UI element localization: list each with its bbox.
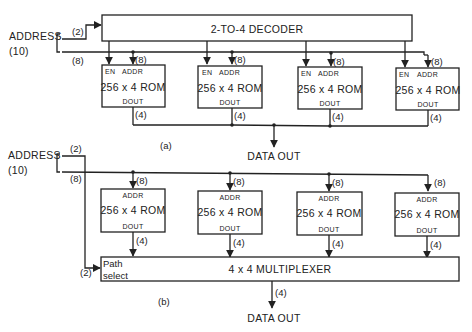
select-width-a: (2) [72,26,84,37]
rom-label: 256 x 4 ROM [197,206,262,218]
rom-label: 256 x 4 ROM [100,81,165,93]
rom-a-3: (8) EN ADDR 256 x 4 ROM DOUT (4) [297,41,362,126]
dout-label: DOUT [122,98,143,105]
rom-b-1: (8) ADDR 256 x 4 ROM DOUT (4) [100,170,165,256]
junction-dot [230,123,234,127]
address-width-a: (10) [9,45,29,57]
addr-label: ADDR [416,196,437,203]
en-label: EN [202,69,212,76]
rom-label: 256 x 4 ROM [197,82,262,94]
dout-label: DOUT [318,226,339,233]
out-width: (4) [136,235,148,246]
addr-label: ADDR [219,194,240,201]
memory-expansion-diagram: ADDRESS (10) (2) (8) 2-TO-4 DECODER (8) … [0,0,472,332]
data-out-label-a: DATA OUT [247,150,301,162]
addr-width: (8) [135,54,147,65]
addr-width: (8) [234,54,246,65]
addr-width: (8) [233,176,245,187]
addr-bus-b [62,172,428,175]
part-a: ADDRESS (10) (2) (8) 2-TO-4 DECODER (8) … [9,15,461,162]
dout-label: DOUT [417,101,438,108]
addr-label: ADDR [417,71,438,78]
addr-label: ADDR [318,195,339,202]
addr-label: ADDR [122,68,143,75]
address-label-b: ADDRESS [8,149,61,161]
rom-label: 256 x 4 ROM [394,208,459,220]
output-bus-a [133,125,428,126]
rom-label: 256 x 4 ROM [296,207,361,219]
rom-label: 256 x 4 ROM [297,83,362,95]
rom-a-4: (8) EN ADDR 256 x 4 ROM DOUT (4) [395,41,460,126]
out-width: (4) [234,110,246,121]
en-label: EN [399,71,409,78]
addr-bus-width-b: (8) [70,173,82,184]
addr-label: ADDR [219,69,240,76]
multiplexer-label: 4 x 4 MULTIPLEXER [229,263,332,275]
dout-label: DOUT [219,99,240,106]
addr-label: ADDR [122,192,143,199]
dout-label: DOUT [219,225,240,232]
junction-dot [328,124,332,128]
out-width: (4) [135,109,147,120]
dout-label: DOUT [319,100,340,107]
select-width-top-b: (2) [70,143,82,154]
addr-width: (8) [431,56,443,67]
caption-a: (a) [160,140,172,151]
en-label: EN [105,68,115,75]
path-select-line2: select [103,270,128,281]
rom-b-3: (8) ADDR 256 x 4 ROM DOUT (4) [296,172,362,257]
dout-label: DOUT [416,227,437,234]
select-width-bottom-b: (2) [80,267,92,278]
addr-label: ADDR [318,70,339,77]
addr-bus-width-a: (8) [72,55,84,66]
rom-a-1: (8) EN ADDR 256 x 4 ROM DOUT (4) [100,41,165,125]
decoder-label: 2-TO-4 DECODER [211,23,304,35]
address-label-a: ADDRESS [9,30,62,42]
rom-label: 256 x 4 ROM [395,84,460,96]
out-width: (4) [332,111,344,122]
address-width-b: (10) [8,164,28,176]
addr-width: (8) [434,177,446,188]
caption-b: (b) [158,296,170,307]
addr-width: (8) [333,56,345,67]
rom-a-2: (8) EN ADDR 256 x 4 ROM DOUT (4) [197,41,262,125]
data-out-label-b: DATA OUT [247,312,301,324]
out-width: (4) [430,239,442,250]
addr-width: (8) [136,175,148,186]
rom-label: 256 x 4 ROM [100,204,165,216]
addr-width: (8) [332,177,344,188]
dout-label: DOUT [122,223,143,230]
out-width: (4) [430,112,442,123]
en-label: EN [301,70,311,77]
path-select-line1: Path [103,258,123,269]
rom-b-2: (8) ADDR 256 x 4 ROM DOUT (4) [197,171,262,257]
out-width: (4) [233,237,245,248]
out-width: (4) [332,238,344,249]
rom-b-4: (8) ADDR 256 x 4 ROM DOUT (4) [394,175,459,258]
part-b: ADDRESS (10) (2) (2) (8) (8) ADDR 256 x … [8,143,460,324]
out-width-b: (4) [275,287,287,298]
